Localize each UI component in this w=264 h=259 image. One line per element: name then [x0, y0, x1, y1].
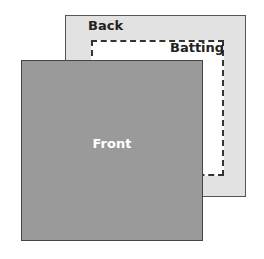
front-label: Front: [21, 136, 203, 151]
batting-label: Batting: [170, 40, 224, 55]
back-label: Back: [88, 18, 123, 33]
